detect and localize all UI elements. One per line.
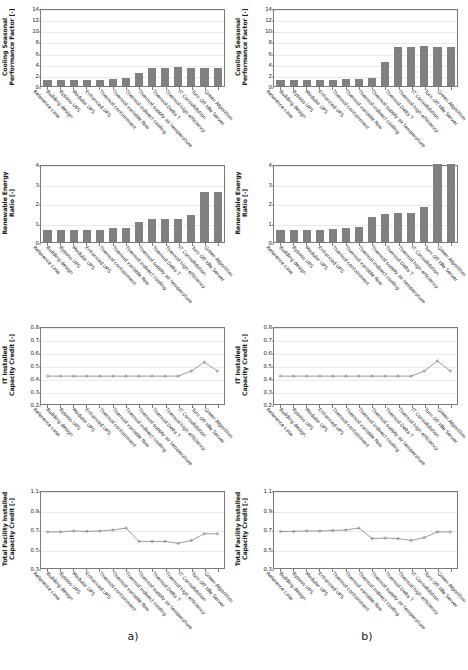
plot-area-it-cap-a: 0.20.30.40.50.60.70.8 xyxy=(40,327,225,405)
bar xyxy=(70,230,78,242)
bar-cell xyxy=(133,166,146,242)
bar-cell xyxy=(159,166,172,242)
chart-panel-total-cap-b: Total Facility Installed Capacity Credit… xyxy=(233,484,465,639)
bar-cell xyxy=(366,166,379,242)
chart-panel-total-cap-a: Total Facility Installed Capacity Credit… xyxy=(0,484,232,639)
bar-cell xyxy=(366,10,379,86)
x-axis-labels: Reference caseBuilding designBypass UPSM… xyxy=(40,571,225,637)
line-series xyxy=(41,492,224,568)
bar xyxy=(200,192,208,242)
y-tick-label: 1 xyxy=(256,222,272,227)
x-tick-marks xyxy=(273,405,458,406)
bar xyxy=(290,80,298,86)
chart-panel-cspf-b: Cooling Seasonal Performance Factor [-]0… xyxy=(233,2,465,157)
x-axis-labels: Reference caseBuilding designBypass UPSM… xyxy=(273,407,458,473)
y-axis-title: Cooling Seasonal Performance Factor [-] xyxy=(1,8,15,86)
caption-b: b) xyxy=(347,631,387,643)
plot-inner: 0.20.30.40.50.60.70.8 xyxy=(41,328,224,404)
bar xyxy=(342,79,350,86)
x-tick-marks xyxy=(273,87,458,88)
y-tick-label: 4 xyxy=(256,163,272,168)
y-tick-label: 0.4 xyxy=(256,377,272,382)
plot-inner: 02468101214 xyxy=(274,10,457,86)
y-tick-label: 0.9 xyxy=(23,509,39,514)
bar-cell xyxy=(67,166,80,242)
bar-cell xyxy=(211,10,224,86)
bar-series xyxy=(41,166,224,242)
bar-cell xyxy=(93,166,106,242)
bar xyxy=(174,219,182,242)
bar xyxy=(329,229,337,242)
bar-cell xyxy=(198,10,211,86)
y-tick-label: 0.7 xyxy=(256,528,272,533)
data-point-marker xyxy=(46,375,48,377)
bar xyxy=(43,80,51,86)
bar-series xyxy=(41,10,224,86)
bar-cell xyxy=(67,10,80,86)
y-tick-label: 0.8 xyxy=(256,325,272,330)
y-tick-label: 1 xyxy=(23,222,39,227)
y-tick-label: 2 xyxy=(23,202,39,207)
bar-cell xyxy=(185,10,198,86)
y-tick-label: 0.6 xyxy=(256,351,272,356)
bar xyxy=(43,230,51,242)
y-tick-label: 6 xyxy=(256,52,272,57)
x-tick-marks xyxy=(273,569,458,570)
bar-cell xyxy=(418,166,431,242)
bar-cell xyxy=(300,166,313,242)
bar-cell xyxy=(392,166,405,242)
chart-grid: Cooling Seasonal Performance Factor [-]0… xyxy=(0,0,465,625)
y-tick-label: 0.7 xyxy=(23,338,39,343)
y-tick-label: 0.4 xyxy=(23,377,39,382)
bar xyxy=(420,46,428,86)
bar-cell xyxy=(326,10,339,86)
y-tick-label: 0.8 xyxy=(23,325,39,330)
bar-cell xyxy=(444,10,457,86)
plot-inner: 01234 xyxy=(274,166,457,242)
y-tick-label: 4 xyxy=(23,163,39,168)
bar-cell xyxy=(352,166,365,242)
line-series xyxy=(274,492,457,568)
bar-cell xyxy=(54,166,67,242)
plot-area-cspf-a: 02468101214 xyxy=(40,9,225,87)
y-tick-label: 0.5 xyxy=(23,364,39,369)
y-tick-label: 10 xyxy=(23,30,39,35)
x-tick-marks xyxy=(40,569,225,570)
bar xyxy=(303,80,311,86)
plot-area-cspf-b: 02468101214 xyxy=(273,9,458,87)
bar xyxy=(316,230,324,242)
plot-inner: 02468101214 xyxy=(41,10,224,86)
data-point-marker xyxy=(279,375,281,377)
bar xyxy=(161,68,169,86)
bar xyxy=(148,219,156,242)
plot-area-rer-a: 01234 xyxy=(40,165,225,243)
bar xyxy=(109,79,117,86)
y-tick-label: 1.1 xyxy=(256,489,272,494)
y-tick-label: 3 xyxy=(23,183,39,188)
chart-panel-cspf-a: Cooling Seasonal Performance Factor [-]0… xyxy=(0,2,232,157)
bar-cell xyxy=(159,10,172,86)
plot-area-total-cap-b: 0.30.50.70.91.1 xyxy=(273,491,458,569)
bar-cell xyxy=(313,166,326,242)
bar-cell xyxy=(287,10,300,86)
x-tick-marks xyxy=(40,405,225,406)
y-tick-label: 0.3 xyxy=(23,390,39,395)
bar xyxy=(290,230,298,242)
x-axis-labels: Reference caseBuilding designBypass UPSM… xyxy=(40,245,225,311)
y-tick-label: 0.5 xyxy=(23,548,39,553)
bar xyxy=(447,47,455,86)
bar xyxy=(135,73,143,86)
bar xyxy=(187,215,195,242)
y-tick-label: 14 xyxy=(256,7,272,12)
bar-cell xyxy=(379,10,392,86)
bar-cell xyxy=(300,10,313,86)
bar xyxy=(433,164,441,242)
x-axis-labels: Reference caseBuilding designBypass UPSM… xyxy=(273,571,458,637)
bar xyxy=(109,228,117,242)
bar-cell xyxy=(405,10,418,86)
y-tick-label: 10 xyxy=(256,30,272,35)
bar xyxy=(83,230,91,242)
bar-cell xyxy=(185,166,198,242)
chart-panel-rer-b: Renewable Energy Ratio [-]01234Reference… xyxy=(233,158,465,313)
